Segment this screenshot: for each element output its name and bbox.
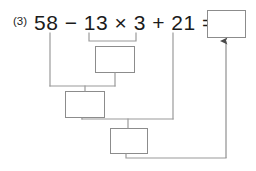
worksheet-page: (3) 58 − 13 × 3 + 21 = xyxy=(0,0,256,171)
order-of-operations-connector-diagram xyxy=(0,0,256,171)
bracket-multiply xyxy=(89,33,136,41)
connector-lines xyxy=(50,33,226,158)
connector-step3-to-final xyxy=(126,154,226,158)
